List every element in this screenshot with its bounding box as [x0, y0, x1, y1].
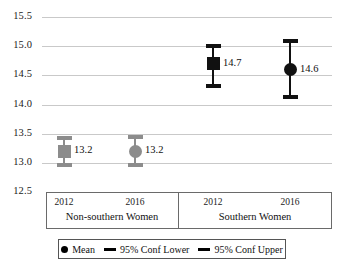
confidence-lower-cap [283, 95, 298, 99]
legend-item: 95% Conf Upper [198, 244, 282, 255]
category-year-label: 2016 [115, 197, 155, 207]
mean-marker-square [207, 57, 220, 70]
gridline [42, 163, 332, 164]
legend-label: 95% Conf Lower [120, 244, 189, 255]
mean-value-label: 13.2 [145, 144, 163, 155]
confidence-lower-cap [128, 163, 143, 167]
mean-value-label: 14.7 [223, 57, 241, 68]
category-year-label: 2012 [193, 197, 233, 207]
y-axis-tick-label: 15.0 [6, 39, 32, 50]
mean-value-label: 13.2 [74, 144, 92, 155]
category-year-label: 2012 [44, 197, 84, 207]
legend-label: 95% Conf Upper [214, 244, 282, 255]
dash-icon [104, 248, 116, 251]
chart-legend: Mean95% Conf Lower95% Conf Upper [58, 239, 286, 259]
gridline [42, 105, 332, 106]
y-axis-tick-label: 13.0 [6, 156, 32, 167]
mean-value-label: 14.6 [300, 63, 318, 74]
gridline [42, 134, 332, 135]
y-axis-tick-label: 14.0 [6, 98, 32, 109]
confidence-lower-cap [57, 163, 72, 167]
confidence-upper-cap [283, 39, 298, 43]
y-axis-tick-label: 14.5 [6, 68, 32, 79]
dash-icon [198, 248, 210, 251]
mean-marker-circle [129, 145, 142, 158]
confidence-lower-cap [206, 84, 221, 88]
dot-icon [61, 246, 68, 253]
mean-marker-square [58, 145, 71, 158]
legend-label: Mean [72, 244, 95, 255]
legend-item: 95% Conf Lower [104, 244, 189, 255]
category-group-label: Southern Women [185, 211, 325, 222]
confidence-upper-cap [128, 135, 143, 139]
y-axis-tick-label: 12.5 [6, 185, 32, 196]
confidence-upper-cap [57, 136, 72, 140]
mean-marker-circle [284, 63, 297, 76]
y-axis-tick-label: 15.5 [6, 10, 32, 21]
category-group-label: Non-southern Women [42, 211, 182, 222]
y-axis-tick-label: 13.5 [6, 127, 32, 138]
confidence-interval-chart: 15.515.014.514.013.513.012.5 13.213.214.… [0, 0, 344, 267]
category-year-label: 2016 [270, 197, 310, 207]
gridline [42, 17, 332, 18]
confidence-upper-cap [206, 44, 221, 48]
legend-item: Mean [61, 244, 95, 255]
